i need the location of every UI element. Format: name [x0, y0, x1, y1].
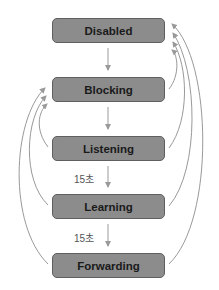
state-listening: Listening: [52, 136, 165, 161]
state-label: Blocking: [84, 84, 133, 96]
state-blocking: Blocking: [52, 77, 165, 102]
state-learning: Learning: [52, 194, 165, 219]
state-forwarding: Forwarding: [52, 253, 165, 278]
timer-label-learning-forwarding: 15초: [74, 230, 94, 245]
state-label: Learning: [84, 201, 133, 213]
timer-label-listening-learning: 15초: [74, 171, 94, 186]
state-label: Listening: [83, 143, 134, 155]
state-label: Disabled: [85, 25, 133, 37]
state-disabled: Disabled: [52, 18, 165, 43]
state-label: Forwarding: [77, 260, 140, 272]
